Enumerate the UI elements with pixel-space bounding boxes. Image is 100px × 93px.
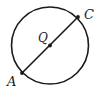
point-label-c: C <box>84 7 94 22</box>
circle-diagram: A Q C <box>0 0 100 93</box>
center-label-q: Q <box>38 31 48 45</box>
point-q-center-dot <box>48 44 52 48</box>
point-label-a: A <box>6 74 16 89</box>
point-a-dot <box>20 71 24 75</box>
circle-diagram-canvas: A Q C <box>0 0 100 93</box>
point-c-dot <box>76 15 80 19</box>
